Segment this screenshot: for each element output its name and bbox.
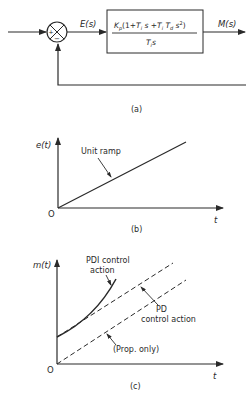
unit-ramp-label: Unit ramp: [81, 147, 121, 156]
pd-label-line2: control action: [141, 315, 196, 324]
pdi-label-line1: PDI control: [86, 256, 130, 265]
minus-sign: −: [54, 35, 60, 43]
pdi-pointer: [106, 275, 111, 285]
pd-label-line1: PD: [156, 305, 167, 314]
prop-pointer: [107, 334, 116, 345]
pd-pointer: [141, 287, 158, 305]
chart-c: m(t) O t PDI control action PD control a…: [33, 256, 223, 391]
origin-label: O: [48, 209, 55, 219]
tf-denominator: Tis: [146, 38, 156, 48]
caption-c: (c): [130, 382, 141, 391]
output-signal-label: M(s): [218, 19, 236, 29]
unit-ramp-line: [58, 142, 186, 208]
caption-b: (b): [131, 225, 142, 234]
error-signal-label: E(s): [80, 19, 96, 29]
y-axis-label: m(t): [33, 260, 51, 270]
block-diagram: + − E(s) Kp(1+Ti s +Ti Td s2) Tis M(s) (…: [8, 10, 246, 114]
feedback-path: [58, 44, 246, 85]
x-axis-label: t: [214, 215, 218, 225]
caption-a: (a): [131, 105, 142, 114]
prop-only-label: (Prop. only): [113, 345, 159, 354]
summing-junction: + −: [47, 22, 67, 43]
plus-sign: +: [49, 28, 54, 35]
tf-numerator: Kp(1+Ti s +Ti Td s2): [114, 20, 186, 32]
ramp-pointer: [98, 158, 111, 177]
x-axis-label: t: [213, 371, 217, 381]
figure: + − E(s) Kp(1+Ti s +Ti Td s2) Tis M(s) (…: [0, 0, 252, 404]
pdi-curve: [57, 279, 116, 337]
origin-label: O: [47, 365, 54, 375]
y-axis-label: e(t): [36, 140, 51, 150]
chart-b: e(t) O t Unit ramp (b): [36, 138, 223, 234]
pdi-label-line2: action: [90, 266, 115, 275]
